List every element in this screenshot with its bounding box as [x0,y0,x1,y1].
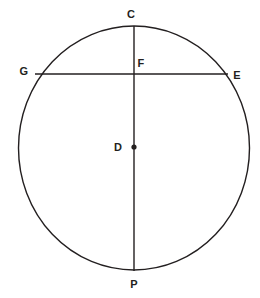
point-label-e: E [233,70,241,81]
point-label-g: G [20,66,29,77]
center-point-dot [131,144,136,149]
geometry-canvas [0,0,260,298]
point-label-f: F [138,58,145,69]
point-label-p: P [130,279,138,290]
point-label-c: C [127,9,135,20]
point-label-d: D [114,142,122,153]
geometry-diagram: C F G E D P [0,0,260,298]
